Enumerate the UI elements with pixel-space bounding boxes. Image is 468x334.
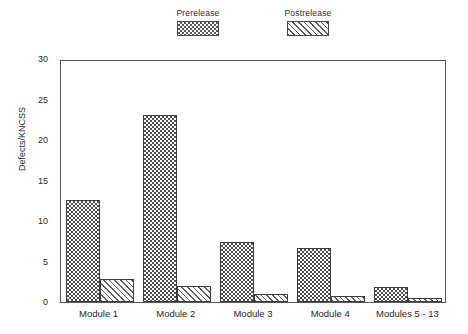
legend-swatch-postrelease	[287, 21, 329, 36]
bar-postrelease	[254, 294, 288, 302]
y-axis-tick-label: 5	[8, 257, 48, 267]
legend-entry-prerelease: Prerelease	[148, 8, 248, 36]
bar-group	[143, 61, 211, 302]
x-axis-tick-label: Modules 5 - 13	[369, 308, 446, 319]
bar-prerelease	[143, 115, 177, 302]
x-axis-tick-label: Module 1	[60, 308, 137, 319]
y-axis-tick-label: 0	[8, 297, 48, 307]
bar-prerelease	[220, 242, 254, 302]
bar-postrelease	[100, 279, 134, 302]
y-axis-tick-group: 302520151050	[0, 60, 60, 303]
bar-postrelease	[331, 296, 365, 302]
x-axis-label-group: Module 1Module 2Module 3Module 4Modules …	[60, 308, 446, 328]
chart-legend: Prerelease Postrelease	[0, 8, 468, 54]
bar-prerelease	[297, 248, 331, 302]
bar-group	[66, 61, 134, 302]
bar-postrelease	[177, 286, 211, 302]
legend-swatch-prerelease	[177, 21, 219, 36]
bar-postrelease	[408, 298, 442, 302]
legend-label-postrelease: Postrelease	[258, 8, 358, 18]
bar-prerelease	[374, 287, 408, 302]
bar-group	[297, 61, 365, 302]
y-axis-tick-label: 15	[8, 176, 48, 186]
y-axis-tick-label: 25	[8, 95, 48, 105]
legend-entry-postrelease: Postrelease	[258, 8, 358, 36]
bar-chart-figure: Prerelease Postrelease Defects/KNCSS 302…	[0, 0, 468, 334]
y-axis-tick-label: 30	[8, 54, 48, 64]
x-axis-tick-label: Module 3	[214, 308, 291, 319]
y-axis-tick-label: 10	[8, 216, 48, 226]
x-axis-tick-label: Module 2	[137, 308, 214, 319]
bars-layer	[61, 61, 445, 302]
y-axis-tick-label: 20	[8, 135, 48, 145]
bar-group	[220, 61, 288, 302]
bar-prerelease	[66, 200, 100, 302]
legend-label-prerelease: Prerelease	[148, 8, 248, 18]
x-axis-tick-label: Module 4	[292, 308, 369, 319]
bar-group	[374, 61, 442, 302]
plot-area	[60, 60, 446, 303]
